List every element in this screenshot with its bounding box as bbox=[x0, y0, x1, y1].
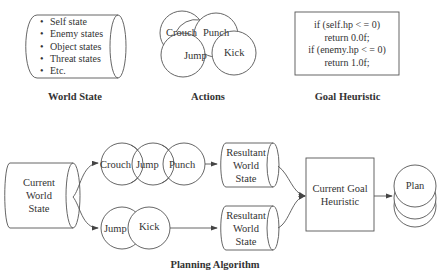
action-kick: Kick bbox=[224, 46, 244, 59]
plan-label: Plan bbox=[400, 179, 430, 192]
seq-a-crouch: Crouch bbox=[100, 158, 131, 171]
goal-heuristic-caption: Goal Heuristic bbox=[300, 91, 395, 102]
code-line: if (self.hp < = 0) bbox=[295, 19, 399, 32]
world-state-item: Threat states bbox=[40, 53, 103, 65]
action-crouch: Crouch bbox=[166, 26, 197, 39]
resultant-b-label: Resultant World State bbox=[220, 209, 272, 248]
world-state-item: Self state bbox=[40, 16, 103, 28]
actions-caption: Actions bbox=[178, 91, 238, 102]
world-state-caption: World State bbox=[40, 91, 110, 102]
world-state-list: Self state Enemy states Object states Th… bbox=[40, 16, 103, 77]
resultant-a-label: Resultant World State bbox=[220, 146, 272, 185]
seq-a-jump: Jump bbox=[136, 158, 159, 171]
plan-stack bbox=[394, 165, 436, 227]
actions-circles bbox=[160, 11, 256, 77]
seq-a-punch: Punch bbox=[169, 158, 195, 171]
seq-b-jump: Jump bbox=[104, 222, 127, 235]
world-state-item: Enemy states bbox=[40, 28, 103, 40]
code-line: return 0.0f; bbox=[295, 32, 399, 45]
code-line: if (enemy.hp < = 0) bbox=[295, 44, 399, 57]
world-state-item: Object states bbox=[40, 41, 103, 53]
action-punch: Punch bbox=[203, 26, 229, 39]
code-line: return 1.0f; bbox=[295, 57, 399, 70]
current-goal-heuristic-label: Current Goal Heuristic bbox=[306, 182, 374, 208]
world-state-item: Etc. bbox=[40, 65, 103, 77]
seq-b-kick: Kick bbox=[139, 220, 159, 233]
action-jump: Jump bbox=[184, 49, 207, 62]
current-world-state-label: Current World State bbox=[8, 176, 70, 215]
planning-algorithm-caption: Planning Algorithm bbox=[150, 259, 280, 270]
goal-heuristic-code: if (self.hp < = 0) return 0.0f; if (enem… bbox=[295, 19, 399, 69]
